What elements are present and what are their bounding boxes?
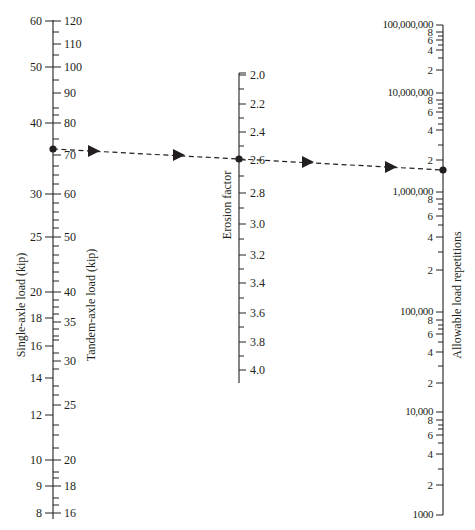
erosion-tick-label: 3.0: [250, 217, 265, 231]
repetitions-tick-label: 2: [428, 479, 434, 491]
erosion-tick-label: 3.2: [250, 248, 265, 262]
example-point-dot: [235, 155, 242, 162]
example-point-dot: [439, 166, 446, 173]
tandem-axle-tick-label: 35: [64, 315, 76, 329]
arrowhead-icon: [173, 149, 185, 161]
erosion-tick-label: 3.6: [250, 306, 265, 320]
tandem-axle-tick-label: 16: [64, 506, 76, 520]
nomograph-svg: 6050403025201816141210981201101009080706…: [0, 0, 475, 530]
tandem-axle-tick-label: 40: [64, 285, 76, 299]
erosion-tick-label: 4.0: [250, 363, 265, 377]
single-axle-tick-label: 30: [30, 187, 42, 201]
tandem-axle-tick-label: 100: [64, 60, 82, 74]
repetitions-tick-label: 8: [428, 314, 434, 326]
repetitions-tick-label: 8: [428, 193, 434, 205]
repetitions-tick-label: 2: [428, 154, 434, 166]
single-axle-tick-label: 9: [36, 479, 42, 493]
single-axle-tick-label: 16: [30, 339, 42, 353]
single-axle-tick-label: 18: [30, 311, 42, 325]
nomograph-chart: 6050403025201816141210981201101009080706…: [0, 0, 475, 530]
single-axle-tick-label: 10: [30, 453, 42, 467]
tandem-axle-tick-label: 30: [64, 354, 76, 368]
arrowhead-icon: [385, 161, 397, 173]
repetitions-tick-label: 1000: [413, 508, 434, 520]
repetitions-tick-label: 8: [428, 414, 434, 426]
repetitions-tick-label: 4: [428, 124, 434, 136]
single-axle-tick-label: 20: [30, 285, 42, 299]
tandem-axle-tick-label: 110: [64, 37, 82, 51]
arrowhead-icon: [302, 156, 314, 168]
tandem-axle-tick-label: 18: [64, 479, 76, 493]
tandem-axle-tick-label: 60: [64, 187, 76, 201]
repetitions-tick-label: 6: [428, 106, 434, 118]
example-point-dot: [49, 145, 56, 152]
repetitions-tick-label: 4: [428, 346, 434, 358]
repetitions-tick-label: 6: [428, 429, 434, 441]
single-axle-tick-label: 12: [30, 408, 42, 422]
erosion-axis-label: Erosion factor: [220, 171, 234, 239]
tandem-axle-tick-label: 80: [64, 116, 76, 130]
repetitions-tick-label: 100,000,000: [382, 18, 434, 30]
single-axle-tick-label: 60: [30, 14, 42, 28]
repetitions-tick-label: 4: [428, 231, 434, 243]
arrowhead-icon: [88, 145, 100, 157]
tandem-axle-tick-label: 90: [64, 86, 76, 100]
repetitions-tick-label: 8: [428, 94, 434, 106]
single-axle-tick-label: 40: [30, 116, 42, 130]
repetitions-tick-label: 2: [428, 377, 434, 389]
single-axle-tick-label: 50: [30, 60, 42, 74]
repetitions-tick-label: 2: [428, 264, 434, 276]
tandem-axle-tick-label: 50: [64, 230, 76, 244]
repetitions-tick-label: 6: [428, 328, 434, 340]
repetitions-tick-label: 4: [428, 44, 434, 56]
tandem-axle-tick-label: 25: [64, 398, 76, 412]
tandem-axle-tick-label: 120: [64, 14, 82, 28]
erosion-tick-label: 2.4: [250, 125, 265, 139]
single-axle-tick-label: 8: [36, 506, 42, 520]
erosion-tick-label: 2.8: [250, 186, 265, 200]
erosion-tick-label: 2.0: [250, 68, 265, 82]
single-axle-tick-label: 14: [30, 371, 42, 385]
repetitions-tick-label: 6: [428, 210, 434, 222]
repetitions-tick-label: 2: [428, 64, 434, 76]
tandem-axle-tick-label: 20: [64, 453, 76, 467]
erosion-tick-label: 3.8: [250, 335, 265, 349]
repetitions-axis-label: Allowable load repetitions: [450, 231, 464, 359]
erosion-tick-label: 3.4: [250, 276, 265, 290]
single-axle-axis-label: Single-axle load (kip): [14, 253, 28, 358]
repetitions-tick-label: 4: [428, 448, 434, 460]
example-dashed-line: [53, 149, 443, 170]
single-axle-tick-label: 25: [30, 230, 42, 244]
erosion-tick-label: 2.2: [250, 97, 265, 111]
tandem-axle-axis-label: Tandem-axle load (kip): [84, 249, 98, 361]
